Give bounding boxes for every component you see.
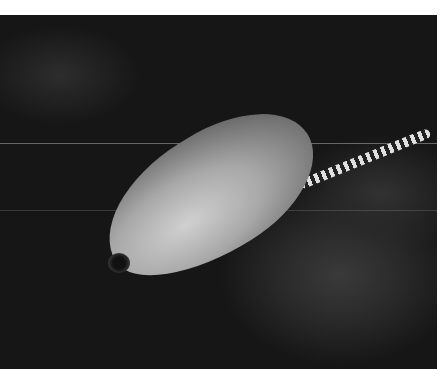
- banded-eel: [298, 128, 432, 190]
- underwater-photo: [0, 15, 437, 369]
- fish-eye: [108, 253, 130, 273]
- grouper-fish: [81, 83, 340, 307]
